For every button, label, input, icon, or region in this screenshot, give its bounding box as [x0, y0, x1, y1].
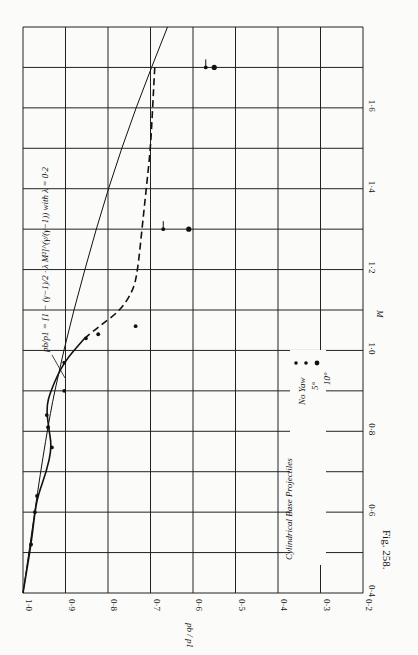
data-point — [62, 389, 66, 393]
chart: 1·00·90·80·70·60·50·40·30·20·40·60·81·01… — [0, 0, 418, 655]
legend: Cylindrical Base ProjectilesNo Yaw5°10° — [284, 350, 332, 565]
legend-entry: 5° — [310, 382, 320, 391]
data-point — [62, 361, 66, 365]
y-tick-label: 0·3 — [322, 599, 332, 611]
y-tick-label: 0·5 — [237, 599, 247, 611]
y-tick-label: 0·2 — [364, 599, 374, 611]
data-point — [84, 336, 88, 340]
data-points — [29, 59, 217, 546]
formula-text: pb/p1 = [1 − (γ−1)/2 · λ M²]^(γ/(γ−1)) w… — [40, 166, 50, 353]
y-tick-label: 0·6 — [194, 599, 204, 611]
series-line — [23, 338, 85, 593]
data-point — [45, 413, 49, 417]
legend-marker — [294, 361, 298, 365]
legend-marker — [315, 361, 320, 366]
data-point — [33, 510, 37, 514]
data-point — [50, 446, 54, 450]
formula-annotation: pb/p1 = [1 − (γ−1)/2 · λ M²]^(γ/(γ−1)) w… — [40, 166, 65, 378]
x-tick-label: 0·4 — [367, 585, 377, 597]
data-point — [96, 332, 100, 336]
y-tick-label: 0·9 — [67, 599, 77, 611]
y-axis-label: pb / p1 — [185, 622, 195, 648]
data-point — [212, 65, 217, 70]
x-axis-label: M — [375, 309, 385, 318]
data-point — [35, 494, 39, 498]
y-tick-label: 0·7 — [152, 599, 162, 611]
x-tick-label: 0·8 — [367, 423, 377, 435]
x-tick-label: 1·0 — [367, 342, 377, 354]
y-tick-label: 0·4 — [279, 599, 289, 611]
legend-marker — [304, 361, 308, 365]
y-tick-label: 0·8 — [109, 599, 119, 611]
legend-entry: No Yaw — [297, 378, 307, 406]
data-point — [29, 543, 33, 547]
legend-entry: 10° — [322, 372, 332, 385]
legend-box — [290, 350, 326, 565]
x-tick-label: 1·2 — [367, 262, 377, 274]
y-tick-label: 1·0 — [24, 599, 34, 611]
x-tick-label: 0·6 — [367, 504, 377, 516]
data-point — [134, 324, 138, 328]
x-tick-label: 1·4 — [367, 181, 377, 193]
data-point — [186, 227, 191, 232]
x-tick-label: 1·6 — [367, 100, 377, 112]
legend-title: Cylindrical Base Projectiles — [284, 458, 294, 560]
data-point — [46, 425, 50, 429]
figure-caption: Fig. 258. — [381, 530, 393, 569]
